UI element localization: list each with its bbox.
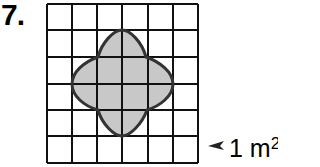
unit-value: 1 m	[229, 134, 271, 162]
unit-square-label: 1 m2	[229, 134, 278, 162]
grid-lines	[47, 4, 198, 163]
unit-exponent: 2	[271, 134, 278, 153]
arrow-left-icon	[208, 141, 226, 151]
